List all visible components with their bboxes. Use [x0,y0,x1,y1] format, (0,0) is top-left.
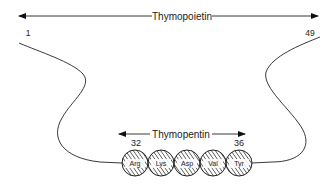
residue-label: Lys [156,160,167,168]
residue-asp: Asp [174,150,200,176]
residue-val: Val [200,150,226,176]
thymopoietin-arrow: Thymopoietin [19,11,318,22]
residue-label: Arg [130,160,141,168]
thymopentin-label: Thymopentin [152,129,210,140]
thymopentin-start-number: 32 [131,138,141,148]
chain-right [252,37,320,163]
residue-label: Val [208,160,218,167]
residue-arg: Arg [122,150,148,176]
residue-label: Tyr [234,160,244,168]
residue-tyr: Tyr [226,150,252,176]
residue-lys: Lys [148,150,174,176]
residue-end-number: 49 [305,28,315,38]
chain-left [19,43,122,163]
residue-label: Asp [181,160,193,168]
thymopoietin-label: Thymopoietin [152,11,212,22]
residue-start-number: 1 [26,28,31,38]
thymopentin-end-number: 36 [234,138,244,148]
thymopoietin-diagram: Thymopoietin 1 49 Thymopentin 32 36 Arg … [0,0,336,184]
